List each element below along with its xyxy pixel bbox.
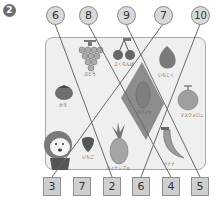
top-number-8: 8 bbox=[79, 6, 98, 25]
girl-character-icon bbox=[44, 131, 72, 170]
persimmon-label: かき bbox=[59, 102, 67, 108]
fig-label: いちじく bbox=[158, 72, 174, 78]
bottom-number-6: 6 bbox=[132, 177, 150, 196]
cherries-label: さくらんぼ bbox=[114, 61, 134, 67]
bottom-number-3: 3 bbox=[43, 177, 61, 196]
top-number-7: 7 bbox=[154, 6, 173, 25]
melon-label: マスクメロン bbox=[180, 112, 204, 118]
grapes-label: ぶどう bbox=[84, 71, 96, 77]
top-number-10: 10 bbox=[191, 6, 210, 25]
banana-icon bbox=[161, 127, 184, 158]
strawberry-label: いちご bbox=[82, 154, 94, 160]
papaya-icon bbox=[136, 82, 150, 108]
persimmon-icon bbox=[55, 85, 73, 100]
bottom-number-4: 4 bbox=[162, 177, 180, 196]
cherries-icon bbox=[113, 38, 135, 60]
top-number-9: 9 bbox=[117, 6, 136, 25]
fig-icon bbox=[159, 46, 175, 69]
melon-icon bbox=[178, 86, 198, 110]
bottom-number-5: 5 bbox=[191, 177, 209, 196]
pineapple-icon bbox=[110, 122, 128, 164]
top-number-6: 6 bbox=[46, 6, 65, 25]
bottom-number-2: 2 bbox=[103, 177, 121, 196]
strawberry-icon bbox=[82, 137, 94, 152]
bottom-number-7: 7 bbox=[73, 177, 91, 196]
papaya-label: パパイヤ bbox=[136, 109, 152, 115]
banana-label: バナナ bbox=[163, 161, 175, 167]
pineapple-label: パイナップル bbox=[106, 165, 130, 171]
